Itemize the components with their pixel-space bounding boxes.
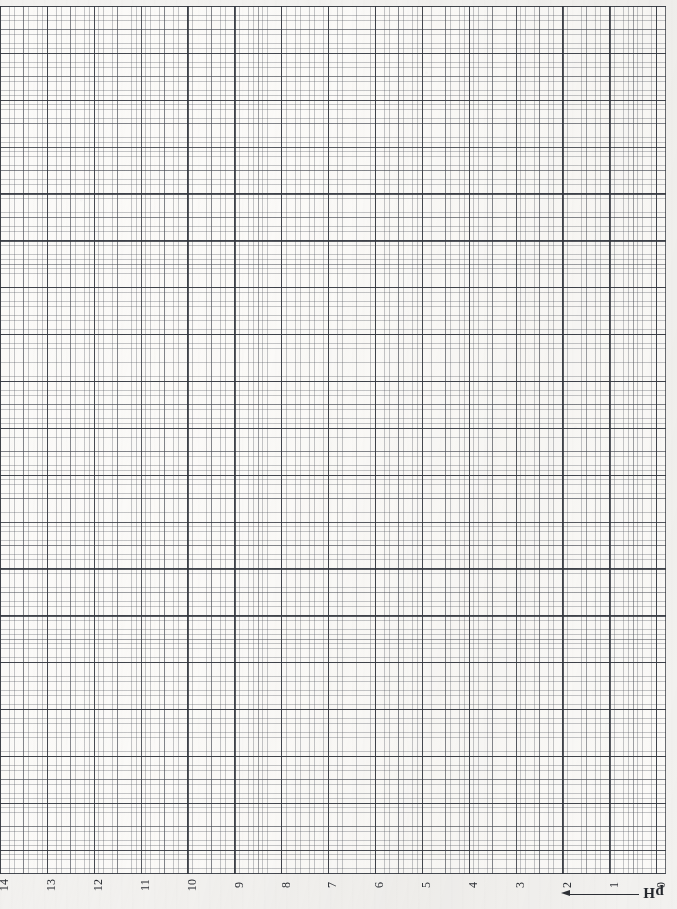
left-arrow-icon bbox=[561, 893, 639, 895]
x-axis-tick-label: 13 bbox=[44, 870, 59, 900]
x-axis-tick-label: 3 bbox=[513, 870, 528, 900]
x-axis-tick-label: 11 bbox=[138, 870, 153, 900]
x-axis-tick-label: 4 bbox=[466, 870, 481, 900]
x-axis-tick-label: 5 bbox=[419, 870, 434, 900]
grid-border bbox=[0, 6, 666, 874]
graph-paper-sheet: 01234567891011121314 pH bbox=[0, 0, 677, 909]
x-axis-tick-label: 9 bbox=[232, 870, 247, 900]
x-axis-title: pH bbox=[643, 884, 664, 901]
grid-fine-lines bbox=[0, 6, 666, 874]
x-axis-tick-label: 7 bbox=[325, 870, 340, 900]
grid-major-lines bbox=[0, 6, 666, 874]
x-axis-tick-label: 12 bbox=[91, 870, 106, 900]
x-axis-tick-label: 10 bbox=[185, 870, 200, 900]
x-axis-tick-label: 8 bbox=[279, 870, 294, 900]
grid-medium-lines bbox=[0, 6, 666, 874]
arrow-shaft bbox=[568, 894, 639, 895]
x-axis-tick-label: 6 bbox=[372, 870, 387, 900]
x-axis-tick-label: 14 bbox=[0, 870, 12, 900]
graph-grid bbox=[0, 6, 666, 874]
x-axis-title-group: pH bbox=[555, 884, 665, 909]
